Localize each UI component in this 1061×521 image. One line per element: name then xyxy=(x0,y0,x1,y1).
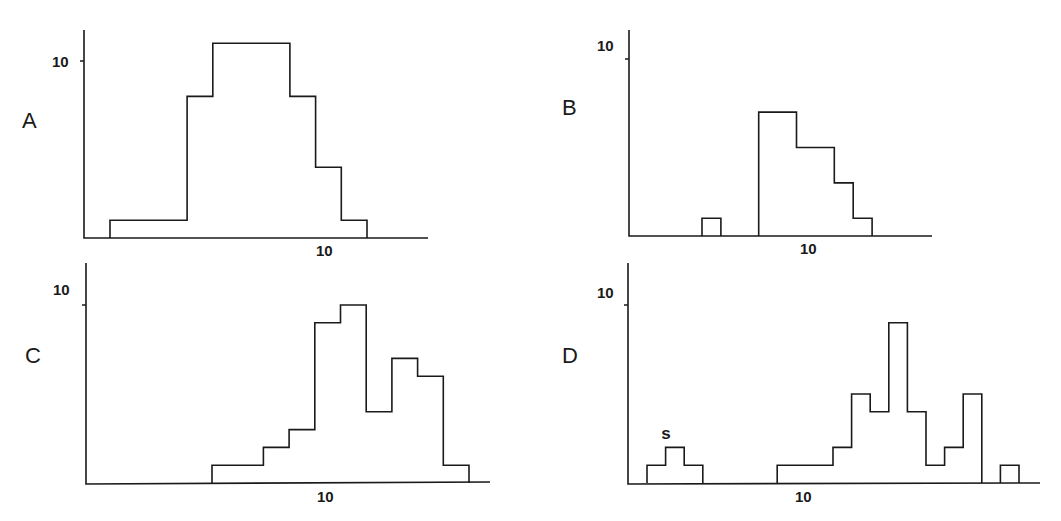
panel-a-y-tick-label: 10 xyxy=(52,53,69,70)
panel-c-y-tick-label: 10 xyxy=(53,281,70,298)
panel-c-axes xyxy=(82,263,490,484)
panel-c-x-tick-label: 10 xyxy=(317,488,334,505)
panel-c-histogram xyxy=(212,305,469,483)
panel-d-x-tick-label: 10 xyxy=(795,488,812,505)
panel-b-histogram xyxy=(702,112,872,236)
panel-d: D 10 s 10 xyxy=(562,263,1040,505)
panel-c: C 10 10 xyxy=(25,263,490,505)
histogram-figure: A 10 10 B 10 10 C 10 10 D 10 s 10 xyxy=(0,0,1061,521)
panel-b-axes xyxy=(625,30,932,236)
panel-b-x-tick-label: 10 xyxy=(800,240,817,257)
panel-d-y-tick-label: 10 xyxy=(597,284,614,301)
panel-a-letter: A xyxy=(22,108,37,133)
panel-d-axes xyxy=(624,263,1040,484)
panel-d-annotation-s: s xyxy=(661,424,670,443)
panel-a-histogram xyxy=(110,43,367,238)
panel-a: A 10 10 xyxy=(22,30,428,259)
panel-b-y-tick-label: 10 xyxy=(597,37,614,54)
panel-b-letter: B xyxy=(562,95,577,120)
panel-c-letter: C xyxy=(25,343,41,368)
panel-d-letter: D xyxy=(562,343,578,368)
panel-b: B 10 10 xyxy=(562,30,932,257)
panel-a-axes xyxy=(80,30,428,238)
panel-d-histogram xyxy=(647,323,1019,483)
panel-a-x-tick-label: 10 xyxy=(316,242,333,259)
